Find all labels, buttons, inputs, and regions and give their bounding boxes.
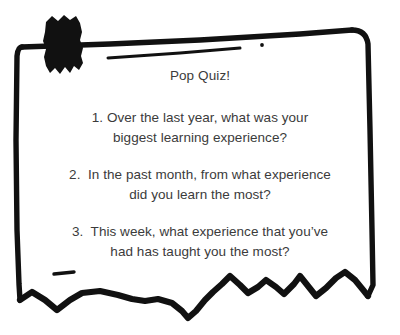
- diagonal-ink-stroke: [108, 48, 240, 58]
- hand-drawn-frame: [0, 0, 400, 335]
- black-ink-blob: [43, 15, 83, 74]
- small-ink-dash: [54, 272, 74, 274]
- frame-bottom-zigzag: [20, 272, 368, 318]
- frame-left-border: [16, 47, 22, 300]
- small-ink-dot: [260, 43, 264, 47]
- quiz-card-page: Pop Quiz! 1. Over the last year, what wa…: [0, 0, 400, 335]
- frame-right-border: [352, 30, 373, 296]
